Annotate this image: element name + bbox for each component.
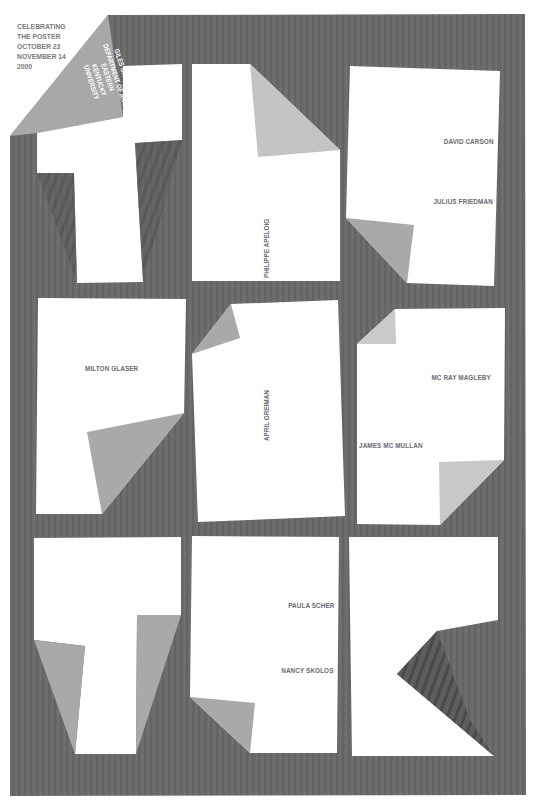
designer-paula-scher: PAULA SCHER <box>288 601 334 610</box>
designer-david-carson: DAVID CARSON <box>444 137 494 146</box>
designer-april-greiman: APRIL GREIMAN <box>262 390 271 441</box>
header-line-5: 2000 <box>17 62 66 72</box>
header-line-4: NOVEMBER 14 <box>17 52 66 62</box>
header-line-2: THE POSTER <box>17 32 66 42</box>
designer-james-mc-mullan: JAMES MC MULLAN <box>359 441 423 450</box>
designer-julius-friedman: JULIUS FRIEDMAN <box>434 197 493 206</box>
header-line-3: OCTOBER 23 <box>17 42 66 52</box>
designer-milton-glaser: MILTON GLASER <box>85 364 138 373</box>
designer-philippe-apeloig: PHILIPPE APELOIG <box>262 219 271 278</box>
designer-nancy-skolos: NANCY SKOLOS <box>281 666 333 675</box>
event-header: CELEBRATING THE POSTER OCTOBER 23 NOVEMB… <box>17 22 66 72</box>
designer-mc-ray-magleby: MC RAY MAGLEBY <box>432 373 491 382</box>
header-line-1: CELEBRATING <box>17 22 66 32</box>
